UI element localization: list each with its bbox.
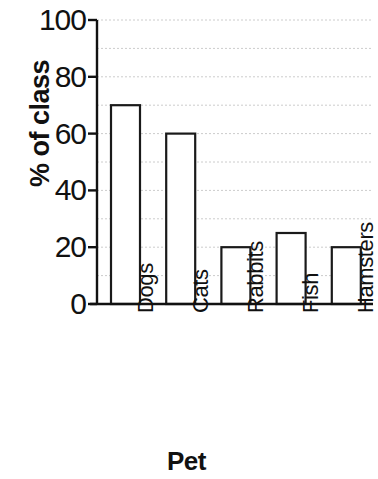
y-tick-label: 20 <box>8 232 86 262</box>
y-tick-label: 80 <box>8 62 86 92</box>
y-tick-label: 0 <box>8 289 86 319</box>
category-label-cats: Cats <box>190 269 212 313</box>
y-axis-ticks <box>88 20 97 304</box>
y-tick-label: 60 <box>8 119 86 149</box>
category-label-fish: Fish <box>300 273 322 313</box>
y-tick-label: 100 <box>8 5 86 35</box>
category-label-hamsters: Hamsters <box>355 222 377 313</box>
category-label-dogs: Dogs <box>135 263 157 313</box>
category-label-rabbits: Rabbits <box>245 241 267 313</box>
y-tick-label: 40 <box>8 175 86 205</box>
